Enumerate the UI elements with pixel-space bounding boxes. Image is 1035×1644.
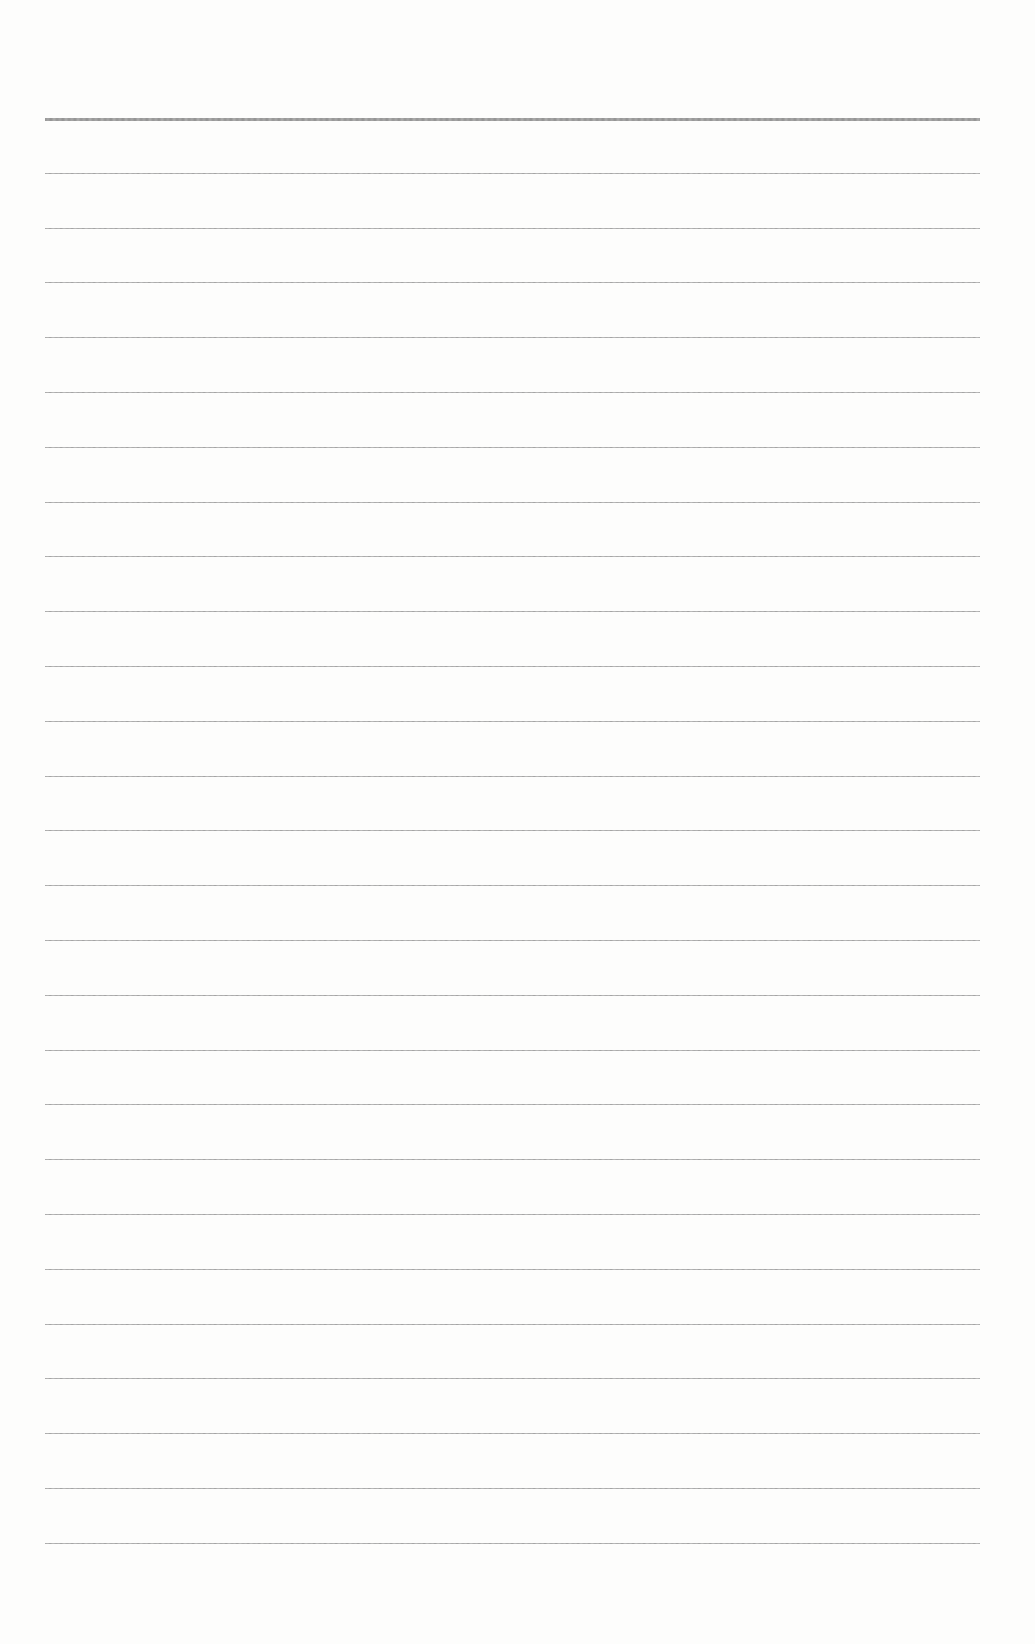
rule-line <box>45 337 980 338</box>
rule-line <box>45 447 980 448</box>
rule-line <box>45 1324 980 1325</box>
ruled-sheet <box>0 0 1035 1644</box>
rule-line <box>45 776 980 777</box>
rule-line <box>45 885 980 886</box>
rule-line <box>45 228 980 229</box>
rule-line <box>45 1543 980 1544</box>
rule-line <box>45 1433 980 1434</box>
rule-line <box>45 995 980 996</box>
rule-line <box>45 1269 980 1270</box>
rule-line <box>45 1050 980 1051</box>
rule-line <box>45 392 980 393</box>
rule-line <box>45 1159 980 1160</box>
rule-line <box>45 1104 980 1105</box>
header-rule-line <box>45 118 980 121</box>
rule-line <box>45 940 980 941</box>
rule-line <box>45 502 980 503</box>
rule-line <box>45 1488 980 1489</box>
rule-line <box>45 830 980 831</box>
rule-line <box>45 721 980 722</box>
rule-line <box>45 666 980 667</box>
rule-line <box>45 556 980 557</box>
rule-line <box>45 173 980 174</box>
rule-line <box>45 611 980 612</box>
rule-line <box>45 1378 980 1379</box>
rule-line <box>45 282 980 283</box>
rule-line <box>45 1214 980 1215</box>
